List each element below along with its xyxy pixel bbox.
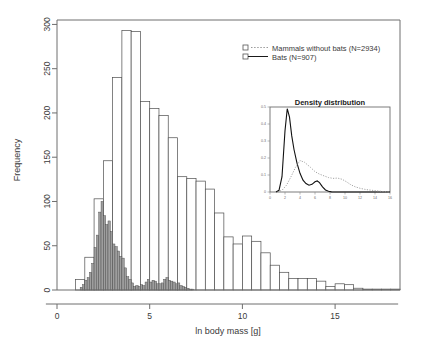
histogram-bar: [115, 247, 117, 290]
histogram-bar: [127, 277, 129, 290]
x-tick-label: 10: [238, 311, 248, 321]
histogram-bar: [82, 285, 84, 290]
histogram-bar: [89, 272, 91, 290]
histogram-bar: [145, 282, 147, 290]
y-tick-label: 100: [42, 194, 52, 208]
legend-label-bats: Bats (N=907): [272, 53, 317, 62]
histogram-bar: [94, 248, 96, 290]
inset-x-tick-label: 4: [299, 196, 301, 200]
histogram-bar: [178, 177, 187, 290]
histogram-bar: [233, 244, 242, 290]
histogram-bar: [150, 282, 152, 290]
histogram-bar: [152, 280, 154, 290]
histogram-bar: [173, 282, 175, 290]
histogram-bar: [242, 236, 251, 290]
y-axis-title: Frequency: [12, 138, 22, 181]
histogram-bar: [150, 109, 159, 290]
histogram-bar: [101, 201, 103, 290]
histogram-bar: [122, 31, 131, 290]
histogram-bar: [289, 278, 298, 290]
histogram-bar: [178, 283, 180, 290]
histogram-bar: [166, 278, 168, 290]
histogram-bar: [344, 285, 353, 290]
inset-y-tick-label: 0.5: [261, 105, 266, 109]
y-tick-label: 0: [42, 287, 52, 292]
histogram-bar: [154, 281, 156, 290]
y-tick-label: 250: [42, 61, 52, 75]
x-axis-title: ln body mass [g]: [195, 326, 261, 336]
legend-marker-bats: [243, 54, 248, 59]
histogram-figure: 050100150200250300 051015 Frequency ln b…: [0, 0, 424, 350]
legend-marker-mammals: [243, 45, 248, 50]
histogram-bar: [92, 263, 94, 290]
histogram-bar: [175, 284, 177, 290]
histogram-bar: [215, 213, 224, 290]
histogram-bar: [113, 244, 115, 290]
inset-frame: [270, 107, 390, 192]
histogram-bar: [129, 279, 131, 290]
inset-y-tick-label: 0.2: [261, 156, 266, 160]
y-tick-label: 200: [42, 106, 52, 120]
histogram-bar: [85, 280, 87, 290]
histogram-bar: [168, 138, 177, 290]
histogram-bar: [159, 116, 168, 290]
inset-x-tick-label: 2: [284, 196, 286, 200]
histogram-bar: [136, 286, 138, 290]
histogram-bar: [140, 285, 142, 290]
inset-x-tick-label: 14: [373, 196, 377, 200]
y-tick-label: 50: [42, 241, 52, 251]
histogram-bar: [159, 284, 161, 290]
histogram-bar: [143, 286, 145, 290]
histogram-bar: [108, 221, 110, 290]
histogram-bar: [106, 224, 108, 290]
y-tick-label: 150: [42, 150, 52, 164]
histogram-bar: [171, 281, 173, 290]
histogram-bar: [335, 284, 344, 290]
histogram-bar: [180, 286, 182, 290]
inset-x-tick-label: 12: [358, 196, 362, 200]
histogram-bar: [157, 284, 159, 290]
inset-x-tick-label: 6: [314, 196, 316, 200]
histogram-bar: [133, 286, 135, 290]
histogram-bar: [131, 283, 133, 290]
inset-y-tick-label: 0.3: [261, 139, 266, 143]
histogram-bar: [138, 286, 140, 290]
histogram-bar: [103, 216, 105, 290]
histogram-bar: [120, 256, 122, 290]
inset-title: Density distribution: [295, 98, 366, 107]
inset-x-tick-label: 8: [329, 196, 331, 200]
histogram-bar: [224, 237, 233, 290]
histogram-bar: [196, 181, 205, 290]
inset-y-tick-label: 0.4: [261, 122, 266, 126]
histogram-bar: [99, 212, 101, 290]
histogram-bar: [261, 253, 270, 290]
histogram-bar: [168, 280, 170, 290]
histogram-bar: [252, 241, 261, 290]
histogram-bar: [182, 286, 184, 290]
histogram-bar: [87, 278, 89, 290]
histogram-bar: [307, 278, 316, 290]
histogram-bar: [317, 281, 326, 290]
histogram-bar: [298, 278, 307, 290]
histogram-bar: [270, 265, 279, 290]
histogram-bar: [161, 283, 163, 290]
histogram-bar: [124, 268, 126, 290]
histogram-bar: [279, 272, 288, 290]
legend-label-mammals: Mammals without bats (N=2934): [272, 44, 381, 53]
x-tick-label: 5: [147, 311, 152, 321]
inset-x-tick-label: 16: [388, 196, 392, 200]
histogram-bar: [205, 189, 214, 290]
inset-x-tick-label: 10: [343, 196, 347, 200]
histogram-bar: [110, 232, 112, 290]
x-tick-label: 15: [330, 311, 340, 321]
histogram-bar: [117, 251, 119, 290]
histogram-bar: [131, 32, 140, 290]
inset-y-tick-label: 0.1: [261, 173, 266, 177]
inset-x-tick-label: 0: [269, 196, 271, 200]
histogram-bar: [96, 235, 98, 290]
y-tick-label: 300: [42, 17, 52, 31]
histogram-bar: [147, 279, 149, 290]
histogram-bar: [164, 279, 166, 290]
x-tick-label: 0: [55, 311, 60, 321]
histogram-bar: [187, 178, 196, 290]
